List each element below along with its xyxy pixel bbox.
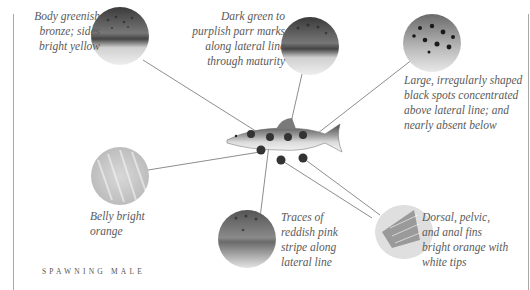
callout-belly: Belly bright orange bbox=[90, 209, 170, 239]
callout-black-spots: Large, irregularly shaped black spots co… bbox=[404, 73, 529, 133]
callout-parr-marks: Dark green to purplish parr marks along … bbox=[185, 9, 285, 69]
callout-body-color: Body greenish bronze; sides bright yello… bbox=[22, 9, 100, 54]
figure-caption: SPAWNING MALE bbox=[42, 267, 145, 276]
trout-illustration bbox=[227, 118, 342, 165]
callout-fins: Dorsal, pelvic, and anal fins bright ora… bbox=[422, 210, 527, 270]
callout-pink-stripe: Traces of reddish pink stripe along late… bbox=[281, 210, 361, 270]
